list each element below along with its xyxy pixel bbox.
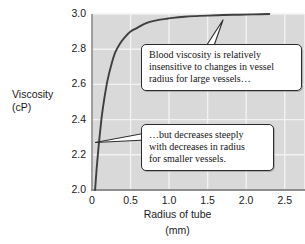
callout-small-vessels: …but decreases steeply with decreases in… — [141, 124, 274, 171]
x-tick-label: 2.5 — [270, 195, 300, 206]
x-tick-label: 0 — [77, 195, 107, 206]
y-axis-title: Viscosity (cP) — [12, 88, 53, 113]
callout-small-vessels-line1: …but decreases steeply — [149, 129, 267, 141]
callout-large-vessels-line3: radius for large vessels… — [149, 73, 295, 85]
x-tick-label: 0.5 — [116, 195, 146, 206]
callout-small-vessels-line3: for smaller vessels. — [149, 153, 267, 165]
y-axis-title-line1: Viscosity — [12, 88, 53, 101]
callout-large-vessels-line2: insensitive to changes in vessel — [149, 61, 295, 73]
y-tick-label: 2.2 — [60, 149, 86, 160]
callout-large-vessels: Blood viscosity is relatively insensitiv… — [141, 44, 302, 91]
callout-large-vessels-line1: Blood viscosity is relatively — [149, 49, 295, 61]
x-tick-label: 1.5 — [193, 195, 223, 206]
x-tick-label: 2.0 — [231, 195, 261, 206]
y-tick-label: 2.6 — [60, 78, 86, 89]
y-axis-title-line2: (cP) — [12, 101, 53, 114]
callout-small-vessels-line2: with decreases in radius — [149, 141, 267, 153]
x-axis-title: Radius of tube — [0, 208, 305, 221]
y-tick-label: 2.8 — [60, 43, 86, 54]
x-axis-unit: (mm) — [0, 224, 305, 237]
y-tick-label: 2.0 — [60, 184, 86, 195]
chart-figure: Viscosity (cP) Radius of tube (mm) 2.02.… — [0, 0, 305, 244]
y-tick-label: 2.4 — [60, 114, 86, 125]
y-tick-label: 3.0 — [60, 8, 86, 19]
x-tick-label: 1.0 — [154, 195, 184, 206]
